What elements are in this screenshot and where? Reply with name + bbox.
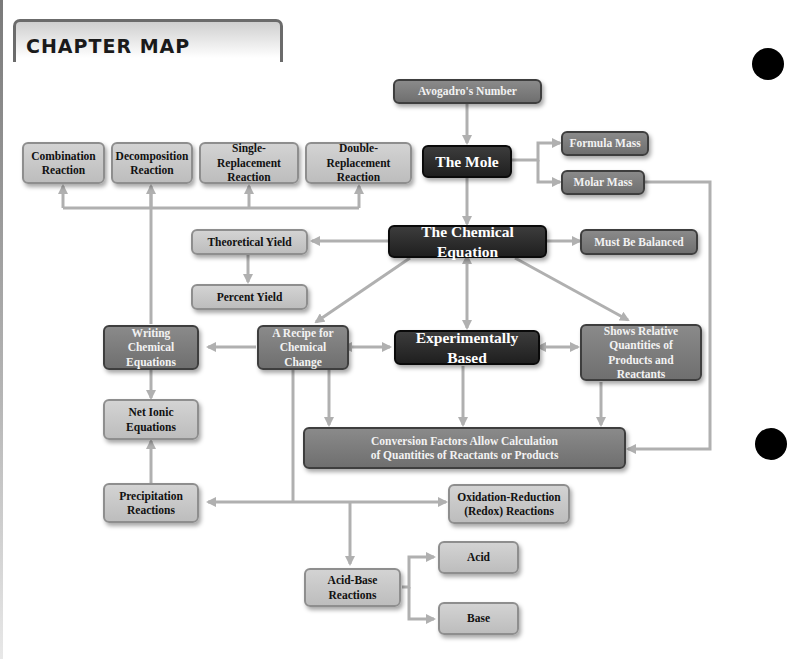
node-precipitation-reactions: Precipitation Reactions: [103, 483, 199, 523]
node-the-chemical-equation: The Chemical Equation: [388, 225, 547, 258]
link-mole-molar-mass: [538, 160, 560, 182]
node-molar-mass: Molar Mass: [561, 170, 645, 195]
node-single-replacement-reaction: Single-Replacement Reaction: [199, 142, 299, 184]
node-label: Molar Mass: [574, 175, 633, 189]
node-shows-relative-quantities: Shows Relative Quantities of Products an…: [580, 324, 702, 381]
link-acid-base-acid: [402, 557, 434, 587]
link-mole-formula-mass: [512, 143, 560, 160]
node-recipe-for-chemical-change: A Recipe for Chemical Change: [257, 325, 349, 370]
link-equation-recipe: [316, 258, 410, 322]
node-label: Precipitation Reactions: [109, 489, 193, 518]
node-must-be-balanced: Must Be Balanced: [580, 229, 698, 255]
node-label: Single-Replacement Reaction: [205, 141, 293, 184]
node-acid-base-reactions: Acid-Base Reactions: [304, 568, 401, 607]
node-label: Percent Yield: [217, 290, 283, 304]
node-label: The Chemical Equation: [394, 222, 541, 261]
node-avogadros-number: Avogadro's Number: [393, 79, 542, 104]
node-the-mole: The Mole: [422, 145, 512, 178]
link-equation-shows: [515, 258, 628, 320]
node-label: The Mole: [435, 152, 498, 171]
node-label: Double-Replacement Reaction: [311, 141, 406, 184]
node-label: A Recipe for Chemical Change: [263, 326, 343, 369]
node-redox-reactions: Oxidation-Reduction (Redox) Reactions: [448, 484, 570, 524]
node-theoretical-yield: Theoretical Yield: [191, 229, 308, 255]
link-molar-mass-conversion: [628, 182, 710, 449]
node-label: Acid-Base Reactions: [310, 573, 395, 602]
node-label: Must Be Balanced: [594, 235, 683, 249]
node-experimentally-based: Experimentally Based: [394, 330, 540, 365]
node-net-ionic-equations: Net Ionic Equations: [103, 399, 199, 440]
node-label: Combination Reaction: [28, 149, 99, 178]
node-label: Decomposition Reaction: [116, 149, 189, 178]
node-label: Base: [467, 611, 490, 625]
node-label: Net Ionic Equations: [109, 405, 193, 434]
node-label: Writing Chemical Equations: [109, 326, 193, 369]
node-base: Base: [438, 602, 519, 635]
node-combination-reaction: Combination Reaction: [22, 142, 105, 184]
node-writing-chemical-equations: Writing Chemical Equations: [103, 325, 199, 370]
node-label: Conversion Factors Allow Calculation of …: [365, 434, 564, 463]
node-label: Formula Mass: [569, 136, 640, 150]
node-percent-yield: Percent Yield: [191, 284, 308, 310]
node-label: Avogadro's Number: [418, 84, 517, 98]
node-formula-mass: Formula Mass: [561, 131, 649, 156]
node-label: Theoretical Yield: [207, 235, 291, 249]
node-double-replacement-reaction: Double-Replacement Reaction: [305, 142, 412, 184]
node-label: Oxidation-Reduction (Redox) Reactions: [454, 490, 564, 519]
node-acid: Acid: [438, 541, 519, 574]
node-decomposition-reaction: Decomposition Reaction: [111, 142, 193, 184]
node-label: Experimentally Based: [400, 328, 534, 367]
node-conversion-factors: Conversion Factors Allow Calculation of …: [303, 427, 626, 469]
link-acid-base-base: [409, 587, 434, 619]
node-label: Shows Relative Quantities of Products an…: [586, 324, 696, 382]
node-label: Acid: [467, 550, 490, 564]
